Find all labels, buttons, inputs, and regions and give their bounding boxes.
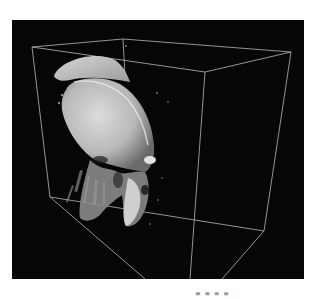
volume-render-canvas[interactable] — [12, 20, 304, 279]
volume-render-viewport[interactable] — [12, 20, 304, 279]
figure-caption: ▄ ▄ ▄ ▄ — [196, 289, 230, 295]
skull-volume-render — [54, 45, 169, 226]
